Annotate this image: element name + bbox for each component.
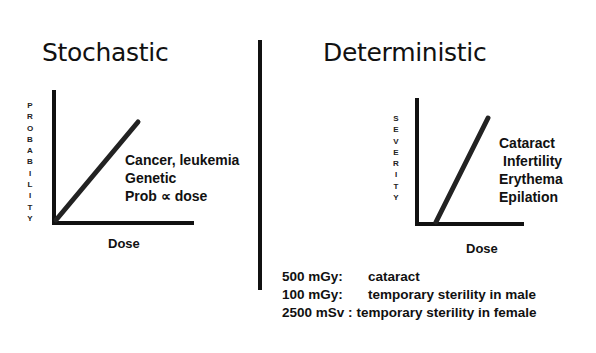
- threshold-row: 2500 mSv : temporary sterility in female: [282, 304, 537, 322]
- threshold-row: 500 mGy: cataract: [282, 268, 537, 286]
- stochastic-effects-list: Cancer, leukemia Genetic Prob ∝ dose: [125, 151, 239, 205]
- threshold-effect: temporary sterility in female: [357, 304, 537, 322]
- threshold-dose-list: 500 mGy: cataract 100 mGy: temporary ste…: [282, 268, 537, 322]
- threshold-dose: 500 mGy:: [282, 268, 368, 286]
- deterministic-dose-label: Dose: [466, 241, 498, 256]
- effect-item: Prob ∝ dose: [125, 187, 239, 205]
- threshold-effect: cataract: [368, 268, 420, 286]
- deterministic-effects-list: Cataract Infertility Erythema Epilation: [499, 134, 563, 206]
- stochastic-dose-label: Dose: [108, 236, 140, 251]
- effect-item: Infertility: [499, 152, 563, 170]
- effect-item: Epilation: [499, 188, 563, 206]
- severity-axis-label: S E V E R I T Y: [391, 113, 401, 203]
- threshold-dose: 100 mGy:: [282, 286, 368, 304]
- threshold-row: 100 mGy: temporary sterility in male: [282, 286, 537, 304]
- effect-item: Cancer, leukemia: [125, 151, 239, 169]
- threshold-dose: 2500 mSv :: [282, 304, 357, 322]
- probability-axis-label: P R O B A B I L I T Y: [25, 100, 35, 224]
- effect-item: Erythema: [499, 170, 563, 188]
- threshold-effect: temporary sterility in male: [368, 286, 536, 304]
- effect-item: Cataract: [499, 134, 563, 152]
- effect-item: Genetic: [125, 169, 239, 187]
- deterministic-response-line: [436, 118, 488, 222]
